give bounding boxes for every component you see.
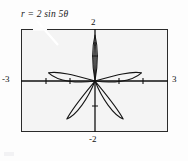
y-axis-max-label: 2: [91, 17, 96, 27]
y-axis-min-label: -2: [89, 134, 97, 144]
polar-rose-figure: r = 2 sin 5θ: [0, 0, 188, 161]
x-axis-max-label: 3: [172, 74, 177, 84]
x-axis-min-label: -3: [2, 74, 10, 84]
polar-plot-canvas: [21, 29, 168, 132]
page-artifact: [4, 152, 14, 156]
equation-annotation: r = 2 sin 5θ: [21, 8, 68, 20]
